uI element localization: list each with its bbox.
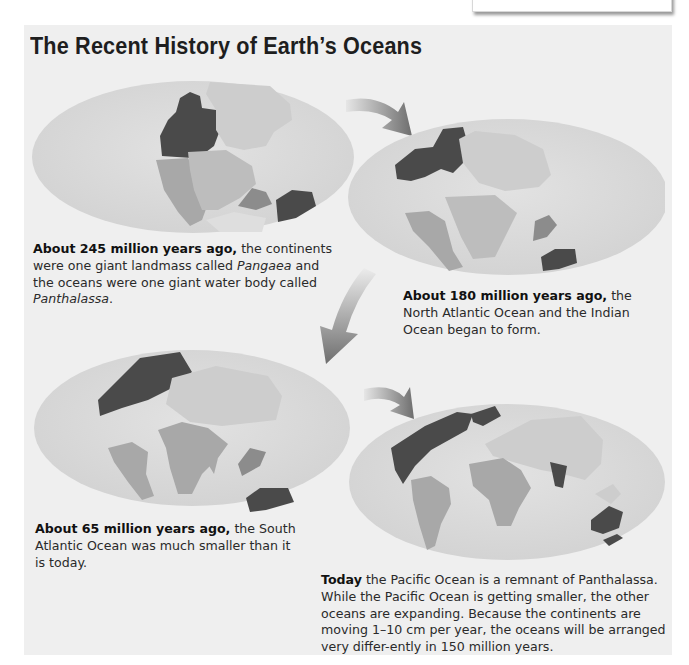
- map-today: [345, 400, 665, 565]
- caption-text: the Pacific Ocean is a remnant of Pantha…: [321, 572, 666, 654]
- map-65-million-years: [32, 348, 352, 513]
- top-callout-box: [472, 0, 672, 12]
- figure-title: The Recent History of Earth’s Oceans: [30, 32, 422, 60]
- term-panthalassa: Panthalassa: [33, 291, 109, 306]
- caption-180-million-years: About 180 million years ago, the North A…: [403, 288, 643, 338]
- caption-245-million-years: About 245 million years ago, the contine…: [33, 241, 333, 308]
- caption-bold: About 65 million years ago,: [35, 521, 230, 536]
- caption-bold: About 180 million years ago,: [403, 288, 607, 303]
- caption-65-million-years: About 65 million years ago, the South At…: [35, 521, 300, 571]
- map-180-million-years: [345, 117, 665, 277]
- caption-bold: About 245 million years ago,: [33, 241, 237, 256]
- caption-bold: Today: [321, 572, 362, 587]
- map-245-million-years: [30, 80, 355, 235]
- term-pangaea: Pangaea: [237, 258, 291, 273]
- caption-today: Today the Pacific Ocean is a remnant of …: [321, 572, 666, 656]
- caption-text: .: [109, 291, 113, 306]
